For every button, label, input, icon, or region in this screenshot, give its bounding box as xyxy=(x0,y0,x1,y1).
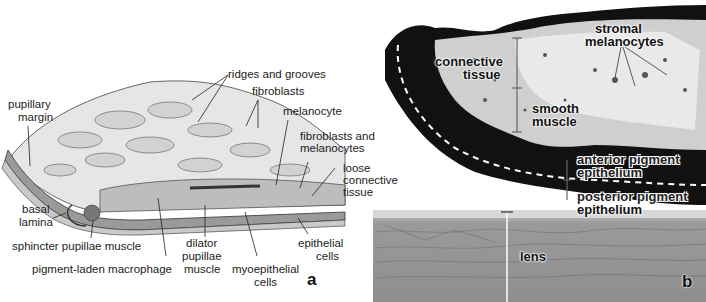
label-ridges-and-grooves: ridges and grooves xyxy=(228,68,326,80)
label-dilator-pupillae-muscle-line1: dilator xyxy=(186,237,217,249)
label-pupillary-margin-line2: margin xyxy=(18,111,53,123)
label-fibroblasts: fibroblasts xyxy=(252,85,304,97)
label-basal-lamina-line2: lamina xyxy=(19,216,53,228)
label-basal-lamina-line1: basal xyxy=(22,203,50,215)
panel-b-iris-micrograph: stromal melanocytes connective tissue sm… xyxy=(365,0,706,302)
label-posterior-pigment-epithelium-line2: epithelium xyxy=(577,203,642,216)
label-myoepithelial-cells-line1: myoepithelial xyxy=(232,263,299,275)
label-fibroblasts-and-melanocytes-line1: fibroblasts and xyxy=(300,130,375,142)
label-sphincter-pupillae-muscle: sphincter pupillae muscle xyxy=(12,240,141,252)
label-dilator-pupillae-muscle-line2: pupillae xyxy=(182,250,222,262)
label-connective-tissue-line2: tissue xyxy=(463,68,501,81)
label-pupillary-margin-line1: pupillary xyxy=(8,98,51,110)
label-epithelial-cells-line1: epithelial xyxy=(298,237,343,249)
label-melanocyte: melanocyte xyxy=(283,105,342,117)
label-dilator-pupillae-muscle-line3: muscle xyxy=(184,263,220,275)
label-myoepithelial-cells-line2: cells xyxy=(254,276,277,288)
label-stromal-melanocytes-line2: melanocytes xyxy=(585,35,664,48)
label-lens: lens xyxy=(520,250,546,263)
panel-letter-a: a xyxy=(307,270,316,290)
label-fibroblasts-and-melanocytes-line2: melanocytes xyxy=(300,142,365,154)
label-smooth-muscle-line2: muscle xyxy=(532,115,577,128)
label-epithelial-cells-line2: cells xyxy=(316,250,339,262)
panel-a-iris-schematic: ridges and grooves fibroblasts pupillary… xyxy=(0,0,365,302)
label-pigment-laden-macrophage: pigment-laden macrophage xyxy=(32,263,172,275)
label-anterior-pigment-epithelium-line2: epithelium xyxy=(577,166,642,179)
panel-letter-b: b xyxy=(682,272,692,292)
